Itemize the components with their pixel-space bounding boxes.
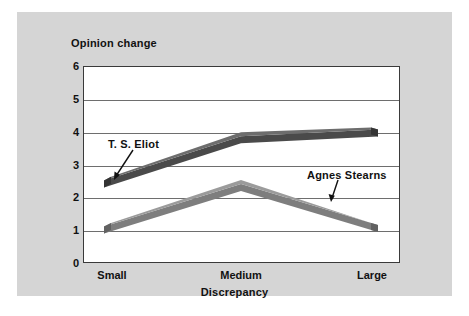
plot-area: [83, 66, 400, 263]
y-axis-title: Opinion change: [71, 37, 157, 49]
y-tick-1: 1: [57, 225, 79, 236]
y-tick-4: 4: [57, 127, 79, 138]
gridline-3: [84, 166, 399, 167]
gridline-2: [84, 198, 399, 199]
y-tick-6: 6: [57, 61, 79, 72]
y-tick-3: 3: [57, 160, 79, 171]
y-tick-5: 5: [57, 94, 79, 105]
x-tick-medium: Medium: [196, 269, 286, 281]
x-tick-small: Small: [67, 269, 157, 281]
x-axis-title: Discrepancy: [0, 286, 469, 298]
y-tick-0: 0: [57, 258, 79, 269]
y-tick-2: 2: [57, 192, 79, 203]
chart-figure: Opinion change 6 5 4 3 2 1 0 Small Mediu…: [0, 0, 469, 316]
gridline-4: [84, 133, 399, 134]
x-tick-large: Large: [327, 269, 417, 281]
series-label-agnes: Agnes Stearns: [307, 169, 387, 181]
gridline-1: [84, 231, 399, 232]
series-label-eliot: T. S. Eliot: [108, 138, 159, 150]
gridline-5: [84, 100, 399, 101]
